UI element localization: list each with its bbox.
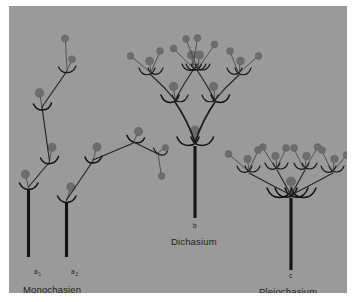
c-u3-bud-c (303, 152, 311, 160)
specimen-b-dichasium (127, 35, 262, 218)
b-bud-lr-left (170, 45, 177, 52)
a1-pedicel-3 (40, 96, 42, 107)
c-u1-bud-l (225, 151, 232, 158)
b-branch-order2-rr (215, 75, 239, 100)
b-bud-ll-c (146, 57, 154, 65)
b-bud-rr-left (227, 48, 234, 55)
c-bud-main (286, 177, 295, 186)
a1-branch-3 (42, 71, 67, 107)
b-bud-rl-c (195, 51, 203, 59)
a1-branch-4 (66, 42, 68, 70)
b-bud-rr-right (255, 53, 262, 60)
c-u3-pedicel-l (295, 151, 303, 167)
a2-bud-4 (162, 145, 169, 152)
a2-pedicel-4 (158, 149, 163, 153)
c-u1-bud-c (244, 155, 252, 163)
b-bud-ll-left (127, 53, 134, 60)
label-dichasium: Dichasium (171, 236, 217, 247)
b-bud-r (209, 82, 218, 91)
b-pedicel-rl-c (198, 58, 199, 69)
c-u2-bract-b (273, 163, 288, 169)
c-unit-3 (291, 144, 322, 170)
c-unit-2 (260, 144, 290, 170)
a1-bud-4 (69, 56, 76, 63)
c-u4-bud-r (343, 152, 347, 159)
label-c-key: c (289, 272, 293, 279)
a2-branch-4 (158, 153, 161, 173)
label-a1-key: a (34, 268, 38, 275)
b-unit-rr (227, 48, 262, 75)
c-u1-bract-b (245, 166, 260, 172)
label-pleiochasium: Pleiochasium (259, 286, 317, 293)
a1-bud-1 (21, 170, 29, 178)
a1-bud-3 (35, 89, 44, 98)
c-unit-1 (225, 147, 262, 173)
b-branch-order1-right (195, 102, 215, 142)
b-bud-ll-right (157, 48, 164, 55)
specimen-c-pleiochasium (225, 144, 347, 271)
b-unit-ll (127, 48, 163, 75)
c-u4-bud-l (319, 147, 326, 154)
b-bud-rl-right (211, 41, 218, 48)
label-a2-key: a (71, 268, 75, 275)
a1-bud-2 (48, 143, 56, 151)
specimen-a2-monochasium (58, 127, 169, 257)
a2-branch-3 (134, 142, 159, 154)
b-bud-rr-c (237, 57, 245, 65)
a1-pedicel-1 (26, 177, 29, 188)
a1-branch-2 (42, 107, 50, 161)
a1-bud-5 (61, 35, 68, 42)
label-a2-subscript: 2 (76, 272, 79, 277)
a2-bud-5 (158, 173, 165, 180)
b-bud-lr-right (194, 35, 201, 42)
c-u3-bud-l (291, 145, 298, 152)
screenshot-root: a 1 a 2 Monochasien b Dichasium c Pleioc… (0, 0, 359, 302)
b-branch-order1-left (175, 102, 195, 142)
b-bud-rl-left (183, 36, 190, 43)
b-bud-l (169, 82, 178, 91)
b-node-order1-left (127, 35, 206, 103)
label-monochasien: Monochasien (23, 284, 81, 293)
a2-bud-3 (134, 127, 142, 135)
a2-bud-2 (93, 143, 101, 151)
c-u2-bud-l (260, 144, 267, 151)
label-a1-subscript: 1 (39, 272, 42, 277)
c-u4-bud-c (331, 155, 339, 163)
inflorescence-diagram: a 1 a 2 Monochasien b Dichasium c Pleioc… (9, 6, 347, 293)
a2-branch-1 (67, 161, 94, 200)
a2-bract-3 (127, 136, 145, 143)
c-unit-4 (319, 147, 348, 173)
a1-branch-1 (29, 162, 50, 187)
figure-panel: a 1 a 2 Monochasien b Dichasium c Pleioc… (9, 6, 347, 293)
c-u3-bract-b (302, 163, 317, 169)
c-u2-bud-r (283, 145, 290, 152)
a1-pedicel-4 (67, 62, 71, 71)
label-b-key: b (193, 222, 197, 229)
c-u2-bud-c (272, 152, 280, 160)
c-u4-pedicel-l (323, 153, 331, 170)
